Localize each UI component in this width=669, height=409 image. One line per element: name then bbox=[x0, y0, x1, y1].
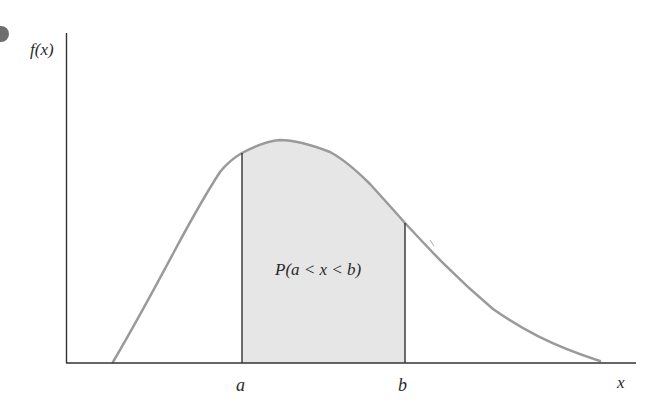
shaded-probability-area bbox=[242, 140, 405, 363]
density-chart: f(x) x a b P(a < x < b) bbox=[0, 0, 669, 409]
chart-container: f(x) x a b P(a < x < b) bbox=[0, 0, 669, 409]
area-label: P(a < x < b) bbox=[274, 260, 362, 279]
tick-label-a: a bbox=[236, 375, 245, 395]
x-axis-label: x bbox=[616, 373, 625, 392]
tick-label-b: b bbox=[398, 375, 407, 395]
bullet-dot bbox=[0, 26, 9, 42]
y-axis-label: f(x) bbox=[30, 40, 54, 59]
stray-mark bbox=[430, 240, 434, 246]
